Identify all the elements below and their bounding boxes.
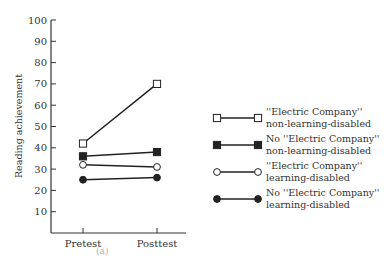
caption-fragment: (a) (96, 246, 108, 256)
y-tick-label: 60 (34, 100, 47, 111)
y-axis-title: Reading achievement (13, 74, 24, 178)
filled-square-marker-icon (153, 148, 160, 155)
filled-circle-marker-icon (255, 196, 262, 203)
legend-item: No ''Electric Company''non-learning-disa… (213, 133, 379, 156)
series-line (80, 174, 161, 183)
filled-circle-marker-icon (80, 176, 87, 183)
data-series (79, 80, 160, 183)
series-line (80, 161, 161, 170)
open-circle-marker-icon (154, 164, 161, 171)
y-tick-label: 90 (34, 36, 47, 47)
line-chart: 102030405060708090100 PretestPosttest Re… (0, 0, 386, 260)
filled-square-marker-icon (79, 153, 86, 160)
y-tick-label: 40 (34, 142, 47, 153)
y-tick-label: 10 (34, 206, 47, 217)
open-square-marker-icon (254, 114, 261, 121)
series-line (79, 148, 160, 159)
y-tick-label: 80 (34, 57, 47, 68)
filled-circle-marker-icon (154, 174, 161, 181)
legend-label: No ''Electric Company'' (266, 133, 379, 144)
y-tick-label: 30 (34, 164, 47, 175)
legend-item: ''Electric Company''non-learning-disable… (213, 106, 371, 129)
open-circle-marker-icon (214, 169, 221, 176)
y-tick-label: 20 (34, 185, 47, 196)
legend-label: ''Electric Company'' (266, 106, 362, 117)
legend-sublabel: non-learning-disabled (266, 145, 371, 156)
legend-sublabel: learning-disabled (266, 172, 350, 183)
series-line (79, 80, 160, 147)
y-tick-label: 100 (28, 15, 47, 26)
y-axis: 102030405060708090100 (28, 15, 56, 234)
y-tick-label: 70 (34, 78, 47, 89)
open-square-marker-icon (79, 140, 86, 147)
legend-item: ''Electric Company''learning-disabled (214, 160, 363, 183)
x-axis: PretestPosttest (51, 228, 186, 249)
filled-circle-marker-icon (214, 196, 221, 203)
x-tick-label: Posttest (137, 238, 178, 249)
open-square-marker-icon (153, 80, 160, 87)
open-circle-marker-icon (255, 169, 262, 176)
legend: ''Electric Company''non-learning-disable… (213, 106, 379, 210)
legend-label: No ''Electric Company'' (266, 187, 379, 198)
y-tick-label: 50 (34, 121, 47, 132)
legend-item: No ''Electric Company''learning-disabled (214, 187, 380, 210)
open-square-marker-icon (213, 114, 220, 121)
open-circle-marker-icon (80, 161, 87, 168)
legend-label: ''Electric Company'' (266, 160, 362, 171)
legend-sublabel: non-learning-disabled (266, 118, 371, 129)
filled-square-marker-icon (254, 141, 261, 148)
legend-sublabel: learning-disabled (266, 199, 350, 210)
filled-square-marker-icon (213, 141, 220, 148)
